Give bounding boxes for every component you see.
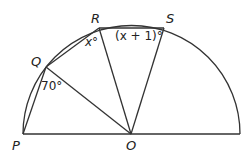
angle-qro-label: x° bbox=[84, 35, 98, 49]
radius-ro bbox=[99, 28, 131, 134]
semicircle-diagram: P Q R S O 70° x° (x + 1)° bbox=[0, 0, 252, 156]
label-p: P bbox=[12, 138, 20, 153]
label-o: O bbox=[126, 138, 136, 153]
radius-qo bbox=[46, 67, 131, 134]
angle-pqo-label: 70° bbox=[41, 79, 62, 93]
label-s: S bbox=[166, 11, 174, 26]
angle-rso-label: (x + 1)° bbox=[115, 29, 163, 43]
label-r: R bbox=[91, 11, 100, 26]
label-q: Q bbox=[31, 54, 41, 69]
chord-pq bbox=[23, 67, 46, 134]
radius-so bbox=[131, 28, 164, 134]
